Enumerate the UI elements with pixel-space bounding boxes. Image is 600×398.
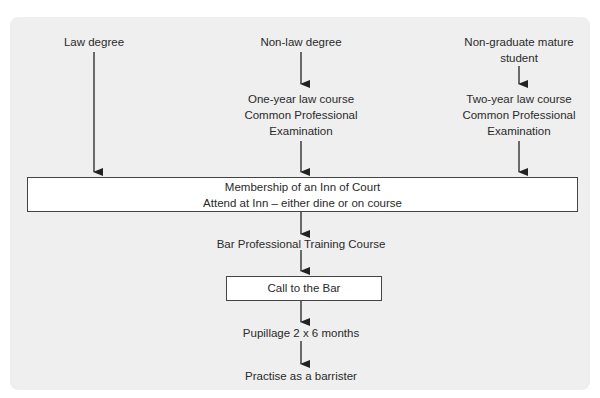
one-year-course-label: One-year law course Common Professional … [236, 91, 366, 139]
one-year-line2: Common Professional [236, 107, 366, 123]
call-to-bar-box: Call to the Bar [226, 276, 382, 301]
two-year-line2: Common Professional [454, 107, 584, 123]
non-graduate-line2: student [449, 50, 589, 66]
inn-line2: Attend at Inn – either dine or on course [28, 195, 577, 211]
inn-line1: Membership of an Inn of Court [28, 179, 577, 195]
one-year-line3: Examination [236, 123, 366, 139]
non-law-degree-label: Non-law degree [241, 34, 361, 50]
pupillage-label: Pupillage 2 x 6 months [221, 325, 381, 341]
non-graduate-line1: Non-graduate mature [449, 34, 589, 50]
two-year-line3: Examination [454, 123, 584, 139]
law-degree-label: Law degree [44, 34, 144, 50]
practise-label: Practise as a barrister [221, 368, 381, 384]
two-year-course-label: Two-year law course Common Professional … [454, 91, 584, 139]
two-year-line1: Two-year law course [454, 91, 584, 107]
inn-of-court-box: Membership of an Inn of Court Attend at … [27, 177, 578, 212]
bptc-label: Bar Professional Training Course [201, 236, 401, 252]
non-graduate-label: Non-graduate mature student [449, 34, 589, 66]
one-year-line1: One-year law course [236, 91, 366, 107]
